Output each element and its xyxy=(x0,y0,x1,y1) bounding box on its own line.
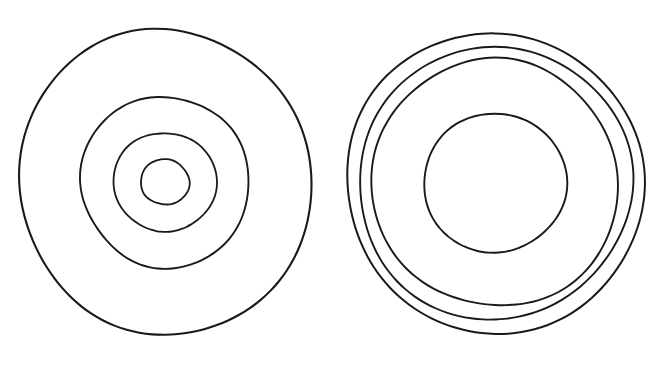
concentric-circles-figure xyxy=(0,0,664,376)
diagram-canvas xyxy=(0,0,664,376)
